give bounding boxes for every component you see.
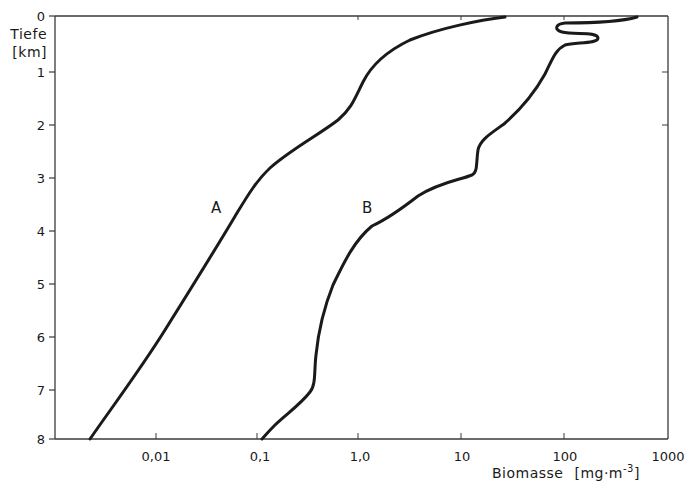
curve-b xyxy=(262,17,637,439)
x-axis-title-text: Biomasse xyxy=(492,465,563,481)
x-axis-title: Biomasse [mg·m-3] xyxy=(492,463,640,481)
x-tick-label: 100 xyxy=(553,449,578,464)
x-tick-label: 0,1 xyxy=(250,449,271,464)
x-tick-label: 0,01 xyxy=(142,449,171,464)
y-tick-label: 1 xyxy=(37,65,45,80)
y-tick-label: 2 xyxy=(37,118,45,133)
x-tick-label: 1,0 xyxy=(350,449,371,464)
curve-b-label: B xyxy=(362,199,372,217)
x-axis-unit: [mg·m xyxy=(574,465,623,481)
y-tick-label: 0 xyxy=(37,9,45,24)
y-tick-label: 6 xyxy=(37,330,45,345)
x-tick-label: 10 xyxy=(454,449,471,464)
x-axis-unit-close: ] xyxy=(634,465,640,481)
curve-a-label: A xyxy=(211,199,222,217)
y-tick-label: 5 xyxy=(37,277,45,292)
y-tick-label: 3 xyxy=(37,171,45,186)
y-axis-unit: [km] xyxy=(12,44,47,60)
y-axis-title: Tiefe xyxy=(9,26,47,42)
x-axis: 0,01 0,1 1,0 10 100 1000 Biomasse [mg·m-… xyxy=(142,16,685,481)
plot-frame xyxy=(55,16,668,439)
y-axis: 0 1 2 3 4 5 6 7 8 Tiefe [km] xyxy=(9,9,668,447)
curve-a xyxy=(90,17,505,439)
biomass-depth-chart: 0 1 2 3 4 5 6 7 8 Tiefe [km] 0,01 0,1 1,… xyxy=(0,0,696,499)
y-tick-label: 7 xyxy=(37,383,45,398)
y-tick-label: 8 xyxy=(37,432,45,447)
x-axis-unit-exponent: -3 xyxy=(623,463,634,474)
x-tick-label: 1000 xyxy=(651,449,684,464)
y-tick-label: 4 xyxy=(37,224,45,239)
